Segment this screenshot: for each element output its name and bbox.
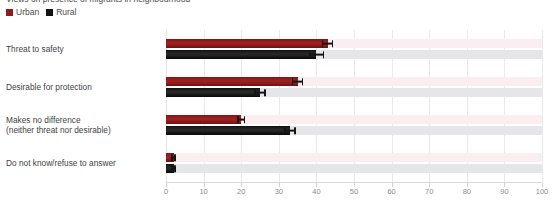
x-tick-label: 30	[275, 187, 283, 196]
bar-urban[interactable]	[166, 153, 542, 163]
bar-rural[interactable]	[166, 50, 542, 60]
legend-item-rural[interactable]: Rural	[46, 8, 76, 17]
error-bar	[309, 54, 324, 55]
x-tick-label: 40	[312, 187, 320, 196]
error-bar	[254, 92, 265, 93]
error-bar	[171, 157, 176, 158]
error-bar	[237, 119, 245, 120]
bar-urban[interactable]	[166, 77, 542, 87]
bar-fill	[166, 115, 241, 125]
x-tick-label: 90	[500, 187, 508, 196]
bar-urban[interactable]	[166, 39, 542, 49]
legend-swatch-rural	[46, 9, 53, 16]
chart-root: Views on presence of migrants in neighbo…	[0, 0, 552, 207]
legend-swatch-urban	[6, 9, 13, 16]
x-tick-label: 70	[425, 187, 433, 196]
chart-legend: Urban Rural	[6, 7, 76, 18]
bar-rural[interactable]	[166, 164, 542, 174]
bar-fill	[166, 77, 298, 87]
bar-fill	[166, 88, 260, 98]
error-bar	[292, 81, 303, 82]
x-tick-label: 20	[237, 187, 245, 196]
x-axis-tick-labels: 0102030405060708090100	[0, 187, 552, 201]
x-tick-label: 60	[387, 187, 395, 196]
bar-rural[interactable]	[166, 126, 542, 136]
bar-track	[166, 164, 542, 174]
grid-line	[542, 30, 543, 182]
bar-fill	[166, 126, 290, 136]
legend-item-urban[interactable]: Urban	[6, 8, 39, 17]
legend-label-urban: Urban	[16, 8, 39, 17]
x-tick-label: 50	[350, 187, 358, 196]
legend-label-rural: Rural	[56, 8, 76, 17]
bar-rural[interactable]	[166, 88, 542, 98]
bar-urban[interactable]	[166, 115, 542, 125]
x-tick-label: 0	[164, 187, 168, 196]
category-label: Desirable for protection	[6, 83, 92, 93]
bar-fill	[166, 50, 316, 60]
category-axis-labels: Threat to safetyDesirable for protection…	[6, 30, 164, 182]
category-label: Threat to safety	[6, 45, 64, 55]
category-label: Makes no difference (neither threat nor …	[6, 116, 111, 135]
error-bar	[322, 43, 333, 44]
x-tick-label: 100	[536, 187, 549, 196]
plot-area	[166, 30, 542, 182]
error-bar	[171, 168, 176, 169]
x-tick-label: 10	[199, 187, 207, 196]
bar-fill	[166, 39, 328, 49]
error-bar	[284, 130, 295, 131]
category-label: Do not know/refuse to answer	[6, 159, 116, 169]
x-tick-label: 80	[463, 187, 471, 196]
chart-title: Views on presence of migrants in neighbo…	[6, 0, 426, 4]
bar-track	[166, 153, 542, 163]
